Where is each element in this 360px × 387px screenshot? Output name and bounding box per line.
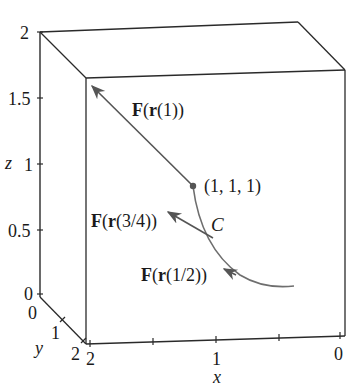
x-tick-2: 2: [86, 350, 95, 368]
label-f-r-3-4: F(r(3/4)): [91, 212, 157, 230]
label-f-r-1-2-f: F: [141, 265, 152, 285]
vector-f-r-3-4: [168, 212, 213, 238]
back-top-edge: [40, 22, 298, 32]
front-top-edge: [86, 70, 345, 78]
curve-label: C: [211, 215, 224, 234]
y-axis-line: [40, 297, 86, 344]
x-axis-label: x: [213, 368, 221, 386]
label-f-r-1-2-arg: (1/2): [166, 265, 201, 285]
x-tick-1: 1: [212, 350, 221, 368]
x-tick-0: 0: [334, 345, 343, 363]
right-top-diagonal: [298, 22, 345, 70]
curve-c: [193, 186, 294, 287]
z-tick-0-5: 0.5: [8, 222, 31, 240]
label-f-r-3-4-arg: (3/4): [116, 211, 151, 231]
label-f-r-3-4-f: F: [91, 211, 102, 231]
left-top-diagonal: [40, 32, 86, 78]
y-tick-1: 1: [51, 324, 60, 342]
y-axis-label: y: [35, 339, 43, 357]
z-tick-1-5: 1.5: [8, 90, 31, 108]
label-f-r-1: F(r(1)): [132, 101, 184, 119]
z-tick-2: 2: [20, 24, 29, 42]
label-f-r-1-f: F: [132, 100, 143, 120]
z-tick-0: 0: [24, 285, 33, 303]
label-f-r-1-arg: (1): [157, 100, 178, 120]
y-tick-0: 0: [28, 304, 37, 322]
y-tick-2: 2: [71, 345, 80, 363]
label-f-r-3-4-r: r: [108, 211, 116, 231]
z-axis-label: z: [5, 154, 12, 172]
point-label: (1, 1, 1): [204, 177, 261, 195]
label-f-r-1-r: r: [149, 100, 157, 120]
label-f-r-1-2-r: r: [158, 265, 166, 285]
label-f-r-1-2: F(r(1/2)): [141, 266, 207, 284]
z-tick-1: 1: [24, 156, 33, 174]
